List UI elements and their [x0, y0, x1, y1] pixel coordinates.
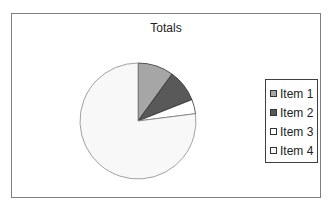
legend-swatch-icon [270, 128, 277, 135]
chart-area: Totals Item 1 Item 2 Item 3 Item 4 [11, 13, 321, 198]
legend-label: Item 4 [280, 144, 313, 158]
legend-label: Item 2 [280, 106, 313, 120]
legend-item-2: Item 2 [270, 103, 317, 122]
legend-swatch-icon [270, 147, 277, 154]
pie-chart [78, 61, 198, 181]
legend-swatch-icon [270, 90, 277, 97]
legend-item-4: Item 4 [270, 141, 317, 160]
legend-label: Item 3 [280, 125, 313, 139]
legend-item-1: Item 1 [270, 84, 317, 103]
legend-label: Item 1 [280, 87, 313, 101]
legend-swatch-icon [270, 109, 277, 116]
legend-item-3: Item 3 [270, 122, 317, 141]
legend: Item 1 Item 2 Item 3 Item 4 [265, 79, 318, 163]
chart-title: Totals [12, 21, 320, 35]
